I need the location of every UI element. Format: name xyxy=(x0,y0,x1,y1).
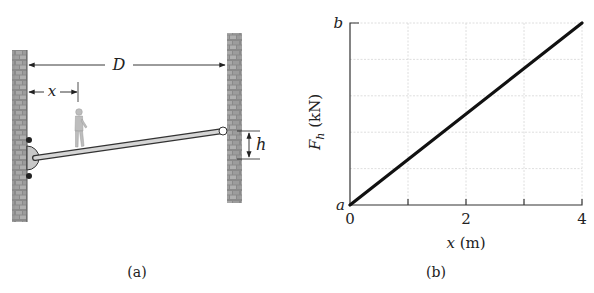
label-h: h xyxy=(256,135,266,154)
x-tick-0: 0 xyxy=(345,210,355,228)
label-x: x xyxy=(48,82,57,100)
y-axis-label: Fh (kN) xyxy=(306,94,327,151)
x-tick-4: 4 xyxy=(577,210,587,228)
figure-canvas: D x xyxy=(0,0,594,293)
roller-support xyxy=(219,127,227,135)
dimension-x: x xyxy=(29,82,78,102)
right-wall xyxy=(227,33,242,203)
person-icon xyxy=(75,109,87,147)
x-tick-2: 2 xyxy=(461,210,471,228)
label-D: D xyxy=(112,55,126,74)
beam xyxy=(35,131,223,158)
y-tick-b: b xyxy=(333,14,343,32)
panel-b-chart: b a 0 2 4 x (m) Fh (kN) (b) xyxy=(306,14,587,280)
caption-b: (b) xyxy=(426,264,446,280)
y-tick-a: a xyxy=(336,196,345,214)
caption-a: (a) xyxy=(127,264,146,280)
dimension-D: D xyxy=(29,55,225,74)
x-axis-label: x (m) xyxy=(446,234,485,252)
left-wall xyxy=(12,50,27,222)
panel-a: D x xyxy=(12,33,266,280)
